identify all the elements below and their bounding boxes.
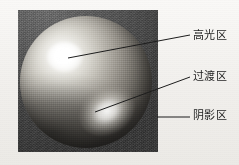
annotation-label-transition: 过渡区 [193, 70, 227, 83]
sphere-specular-highlight [47, 42, 83, 72]
sphere-photo-panel [18, 10, 158, 152]
annotation-label-shadow: 阴影区 [193, 109, 227, 122]
annotation-label-highlight: 高光区 [193, 29, 227, 42]
figure-root: 高光区 过渡区 阴影区 [0, 0, 239, 165]
